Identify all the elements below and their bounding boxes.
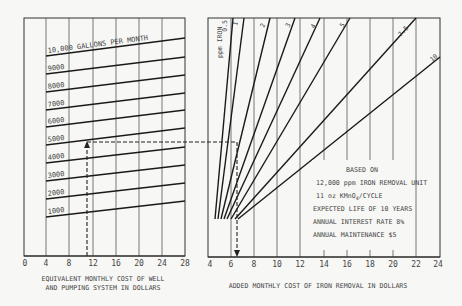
svg-text:4: 4 [44, 259, 49, 268]
svg-text:10: 10 [428, 52, 439, 63]
svg-text:ANNUAL MAINTENANCE $5: ANNUAL MAINTENANCE $5 [313, 231, 396, 239]
left-chart: 10,000 GALLONS PER MONTH 9000 8000 7000 … [23, 18, 190, 292]
line-6000 [46, 110, 185, 127]
svg-text:8: 8 [67, 259, 72, 268]
svg-text:1: 1 [231, 21, 240, 27]
svg-text:20: 20 [134, 259, 144, 268]
svg-text:0.5: 0.5 [221, 20, 229, 32]
line-8000 [46, 75, 185, 92]
assumptions-note: BASED ON 12,000 ppm IRON REMOVAL UNIT 11… [312, 160, 427, 250]
svg-text:3: 3 [284, 22, 293, 29]
svg-text:16: 16 [342, 260, 352, 269]
line-5000 [46, 128, 185, 145]
svg-text:4: 4 [309, 22, 318, 30]
line-1000 [46, 201, 185, 217]
svg-text:ANNUAL INTEREST RATE 8%: ANNUAL INTEREST RATE 8% [313, 218, 404, 226]
right-chart: ppm IRON 0.5 1 2 3 4 5 7.5 10 4 6 8 10 1… [208, 18, 443, 290]
svg-text:6: 6 [229, 260, 234, 269]
svg-text:12: 12 [295, 260, 305, 269]
left-x-ticks: 0 4 8 12 16 20 24 28 [23, 259, 190, 268]
svg-text:24: 24 [433, 260, 443, 269]
right-x-label: ADDED MONTHLY COST OF IRON REMOVAL IN DO… [229, 282, 408, 290]
svg-text:14: 14 [319, 260, 329, 269]
svg-text:0: 0 [23, 259, 28, 268]
svg-text:24: 24 [157, 259, 167, 268]
svg-text:20: 20 [388, 260, 398, 269]
svg-text:BASED ON: BASED ON [346, 166, 378, 174]
nomograph: 10,000 GALLONS PER MONTH 9000 8000 7000 … [0, 0, 462, 306]
left-x-label-line1: EQUIVALENT MONTHLY COST OF WELL [41, 275, 164, 283]
ppm-3-line [224, 18, 295, 219]
line-3000 [46, 165, 185, 181]
left-x-label-line2: AND PUMPING SYSTEM IN DOLLARS [45, 284, 160, 292]
svg-text:4: 4 [208, 260, 213, 269]
svg-text:18: 18 [365, 260, 375, 269]
left-curves [46, 38, 185, 217]
line-7000 [46, 93, 185, 110]
line-9000 [46, 57, 185, 74]
svg-text:22: 22 [411, 260, 421, 269]
svg-text:10: 10 [272, 260, 282, 269]
svg-text:5: 5 [338, 21, 347, 29]
svg-text:8: 8 [252, 260, 257, 269]
kmno4-line: 11 oz KMnO4/CYCLE [316, 192, 383, 201]
svg-text:EXPECTED LIFE OF 10 YEARS: EXPECTED LIFE OF 10 YEARS [313, 205, 412, 213]
svg-text:2: 2 [258, 22, 267, 29]
svg-text:28: 28 [180, 259, 190, 268]
svg-text:16: 16 [111, 259, 121, 268]
line-2000 [46, 183, 185, 199]
ppm-4-line [227, 18, 320, 219]
arrow-down-icon [234, 250, 240, 257]
svg-text:12,000 ppm IRON REMOVAL UNIT: 12,000 ppm IRON REMOVAL UNIT [316, 179, 427, 187]
line-4000 [46, 147, 185, 163]
svg-text:12: 12 [88, 259, 98, 268]
right-x-ticks: 4 6 8 10 12 14 16 18 20 22 24 [208, 260, 443, 269]
